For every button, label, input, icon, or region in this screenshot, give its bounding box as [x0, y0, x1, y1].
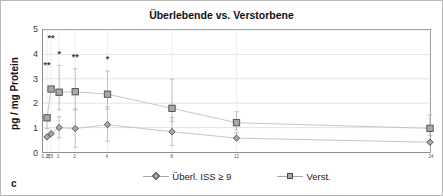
- x-axis-tick-label: 1: [57, 154, 60, 159]
- data-point-marker: [427, 125, 433, 131]
- x-axis-tick-label: 4: [106, 154, 109, 159]
- data-point-marker: [169, 129, 175, 135]
- x-axis-tick-label: 24: [428, 154, 433, 159]
- data-point-marker: [104, 91, 110, 97]
- data-point-marker: [104, 122, 110, 128]
- data-point-marker: [169, 105, 175, 111]
- chart-legend: Überl. ISS ≥ 9Verst.: [42, 165, 432, 187]
- x-axis-tick-label: 0,5: [47, 154, 53, 159]
- panel-label: c: [11, 178, 17, 189]
- significance-annotation: **: [72, 52, 80, 62]
- y-axis-ticks: 012345: [23, 25, 40, 157]
- y-axis-tick-label: 1: [33, 123, 38, 133]
- y-axis-label-text: pg / mg Protein: [9, 57, 20, 130]
- x-axis-tick-label: 12: [234, 154, 239, 159]
- legend-entry-2[interactable]: Verst.: [277, 171, 330, 182]
- y-axis-label: pg / mg Protein: [5, 35, 23, 151]
- data-point-marker: [44, 115, 50, 121]
- chart-title: Überlebende vs. Verstorbene: [1, 9, 442, 21]
- legend-label: Verst.: [306, 171, 330, 182]
- significance-annotation: **: [44, 60, 52, 70]
- significance-annotation: *: [57, 49, 61, 59]
- y-axis-tick-label: 3: [33, 74, 38, 84]
- x-axis-tick-label: 8: [170, 154, 173, 159]
- y-axis-tick-label: 5: [33, 24, 38, 34]
- y-axis-tick-label: 4: [33, 49, 38, 59]
- data-point-marker: [427, 139, 433, 145]
- legend-marker: [287, 173, 293, 179]
- legend-square-icon: [277, 171, 303, 181]
- x-axis-tick-label: 2: [73, 154, 76, 159]
- figure-panel: Überlebende vs. Verstorbene pg / mg Prot…: [0, 0, 443, 196]
- y-axis-tick-label: 0: [33, 148, 38, 158]
- legend-diamond-icon: [143, 171, 169, 181]
- legend-marker: [152, 172, 160, 180]
- data-point-marker: [233, 135, 239, 141]
- data-point-marker: [48, 86, 54, 92]
- plot-area: ********: [42, 29, 431, 153]
- legend-label: Überl. ISS ≥ 9: [172, 171, 231, 182]
- data-point-marker: [233, 120, 239, 126]
- legend-entry-1[interactable]: Überl. ISS ≥ 9: [143, 171, 231, 182]
- plot-svg: ********: [43, 30, 430, 152]
- y-axis-tick-label: 2: [33, 98, 38, 108]
- data-point-marker: [72, 89, 78, 95]
- data-point-marker: [56, 89, 62, 95]
- data-point-marker: [72, 125, 78, 131]
- significance-annotation: *: [106, 54, 110, 64]
- significance-annotation: **: [48, 33, 56, 43]
